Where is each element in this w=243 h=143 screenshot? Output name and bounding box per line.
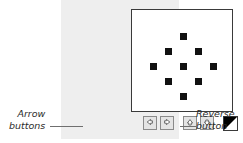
arrow-right-icon bbox=[162, 118, 172, 128]
reverse-button-leader-line bbox=[180, 126, 196, 127]
arrow-right-button[interactable] bbox=[160, 116, 174, 130]
pattern-canvas[interactable] bbox=[131, 9, 233, 112]
dot-upper-left[interactable] bbox=[165, 48, 172, 55]
arrow-left-icon bbox=[145, 118, 155, 128]
dot-left[interactable] bbox=[150, 63, 157, 70]
reverse-button-callout: Reverse button bbox=[196, 108, 235, 131]
arrow-left-button[interactable] bbox=[143, 116, 157, 130]
dot-upper-right[interactable] bbox=[195, 48, 202, 55]
arrow-buttons-callout: Arrow buttons bbox=[9, 108, 45, 131]
arrow-up-button[interactable] bbox=[183, 116, 197, 130]
arrow-buttons-callout-line2: buttons bbox=[9, 120, 45, 132]
dot-top[interactable] bbox=[180, 33, 187, 40]
toolbox-panel bbox=[61, 0, 179, 139]
dot-center[interactable] bbox=[180, 63, 187, 70]
arrow-buttons-callout-line1: Arrow bbox=[9, 108, 45, 120]
reverse-button-callout-line2: button bbox=[196, 120, 235, 132]
arrow-buttons-leader-line bbox=[50, 126, 83, 127]
dot-lower-right[interactable] bbox=[195, 78, 202, 85]
dot-lower-left[interactable] bbox=[165, 78, 172, 85]
dot-right[interactable] bbox=[210, 63, 217, 70]
reverse-button-callout-line1: Reverse bbox=[196, 108, 235, 120]
dot-bottom[interactable] bbox=[180, 93, 187, 100]
